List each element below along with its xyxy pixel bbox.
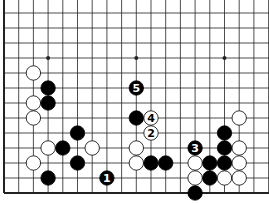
white-stone (217, 171, 231, 185)
black-stone (70, 156, 84, 170)
black-stone-icon (217, 126, 231, 140)
black-stone (217, 141, 231, 155)
white-stone-icon (188, 156, 202, 170)
white-stone-icon (26, 66, 40, 80)
black-stone: 5 (129, 81, 143, 95)
white-stone (232, 111, 246, 125)
black-stone-icon (56, 141, 70, 155)
white-stone (188, 171, 202, 185)
black-stone-icon (217, 156, 231, 170)
black-stone (203, 171, 217, 185)
black-stone: 1 (100, 171, 114, 185)
star-point-icon (223, 56, 227, 60)
black-stone (41, 81, 55, 95)
white-stone (232, 141, 246, 155)
move-number-label: 1 (103, 172, 111, 185)
black-stone-icon (129, 111, 143, 125)
white-stone-icon (26, 96, 40, 110)
star-point-icon (134, 56, 138, 60)
black-stone-icon (41, 81, 55, 95)
white-stone (26, 156, 40, 170)
black-stone (159, 156, 173, 170)
black-stone (70, 126, 84, 140)
white-stone (26, 66, 40, 80)
white-stone-icon (129, 141, 143, 155)
white-stone-icon (232, 171, 246, 185)
move-number-label: 3 (191, 142, 199, 155)
white-stone (26, 96, 40, 110)
black-stone-icon (203, 171, 217, 185)
move-number-label: 2 (147, 127, 155, 140)
white-stone (232, 171, 246, 185)
black-stone (144, 156, 158, 170)
black-stone-icon (41, 171, 55, 185)
black-stone-icon (203, 156, 217, 170)
white-stone-icon (188, 171, 202, 185)
white-stone-icon (232, 156, 246, 170)
white-stone-icon (26, 156, 40, 170)
black-stone: 3 (188, 141, 202, 155)
white-stone (188, 156, 202, 170)
move-number-label: 5 (132, 82, 140, 95)
white-stone: 4 (144, 111, 158, 125)
white-stone (129, 156, 143, 170)
black-stone (217, 156, 231, 170)
black-stone (203, 156, 217, 170)
black-stone (56, 141, 70, 155)
white-stone (26, 111, 40, 125)
black-stone-icon (217, 141, 231, 155)
black-stone-icon (188, 186, 202, 200)
black-stone (129, 111, 143, 125)
white-stone-icon (129, 156, 143, 170)
black-stone-icon (159, 156, 173, 170)
black-stone-icon (70, 156, 84, 170)
white-stone: 2 (144, 126, 158, 140)
black-stone (41, 96, 55, 110)
white-stone-icon (85, 141, 99, 155)
black-stone-icon (144, 156, 158, 170)
white-stone-icon (232, 111, 246, 125)
black-stone (41, 171, 55, 185)
white-stone-icon (41, 141, 55, 155)
go-board: 15423 (0, 0, 269, 204)
black-stone (217, 126, 231, 140)
white-stone (41, 141, 55, 155)
white-stone-icon (217, 171, 231, 185)
move-number-label: 4 (147, 112, 155, 125)
black-stone-icon (41, 96, 55, 110)
white-stone-icon (232, 141, 246, 155)
star-point-icon (46, 56, 50, 60)
white-stone (85, 141, 99, 155)
white-stone (232, 156, 246, 170)
black-stone (188, 186, 202, 200)
black-stone-icon (70, 126, 84, 140)
white-stone-icon (26, 111, 40, 125)
white-stone (129, 141, 143, 155)
